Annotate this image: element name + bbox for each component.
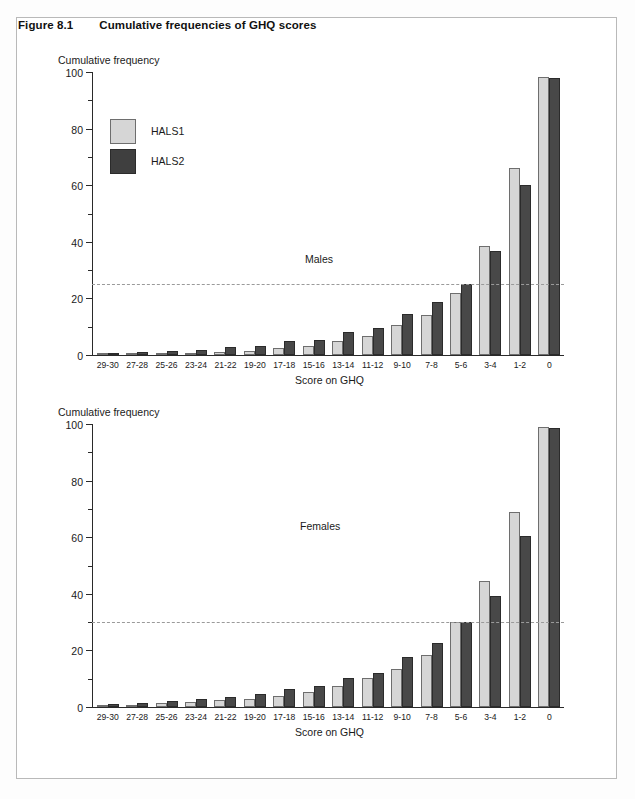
x-axis-tick-label: 25-26: [152, 360, 181, 370]
legend-item-hals2: HALS2: [110, 146, 184, 176]
x-axis-tick-label: 17-18: [270, 712, 299, 722]
bar-hals2: [225, 347, 236, 355]
bar-hals1: [509, 512, 520, 707]
chart-panel-males: Cumulative frequency 020406080100 Males …: [0, 48, 601, 400]
panel-label-females: Females: [300, 520, 340, 532]
bar-group: [417, 72, 446, 355]
bar-group: [211, 424, 240, 707]
bar-group: [270, 72, 299, 355]
reference-line: [92, 284, 564, 285]
bar-hals1: [479, 581, 490, 707]
bar-hals1: [362, 336, 373, 355]
x-axis-tick-label: 9-10: [387, 360, 416, 370]
x-axis-tick-label: 29-30: [93, 360, 122, 370]
figure-title-row: Figure 8.1 Cumulative frequencies of GHQ…: [18, 14, 578, 36]
bar-hals2: [461, 284, 472, 355]
y-axis-major-tick: [86, 355, 92, 356]
bar-hals1: [185, 702, 196, 707]
figure-number: Figure 8.1: [18, 19, 73, 31]
bar-hals2: [490, 596, 501, 707]
legend-item-hals1: HALS1: [110, 116, 184, 146]
bar-hals2: [432, 643, 443, 707]
y-axis-major-tick: [86, 594, 92, 595]
bar-hals1: [332, 341, 343, 355]
bar-hals2: [314, 340, 325, 355]
bar-hals1: [509, 168, 520, 355]
x-axis-tick-label: 21-22: [211, 360, 240, 370]
y-axis-major-tick: [86, 185, 92, 186]
x-axis-line: [92, 707, 564, 708]
bar-hals1: [97, 353, 108, 355]
bar-series-container: [93, 72, 564, 355]
bar-group: [476, 72, 505, 355]
bar-hals2: [108, 353, 119, 355]
x-axis-tick-label: 17-18: [270, 360, 299, 370]
bar-group: [505, 72, 534, 355]
bar-group: [446, 424, 475, 707]
bar-group: [211, 72, 240, 355]
bar-hals2: [343, 332, 354, 355]
x-axis-tick-label: 13-14: [329, 360, 358, 370]
bar-group: [240, 424, 269, 707]
bar-hals2: [490, 251, 501, 355]
bar-hals1: [244, 351, 255, 355]
bar-hals2: [402, 657, 413, 707]
bar-hals1: [479, 246, 490, 355]
bar-hals2: [255, 694, 266, 707]
bar-hals2: [373, 673, 384, 707]
bar-group: [93, 424, 122, 707]
bar-group: [152, 72, 181, 355]
y-axis-major-tick: [86, 72, 92, 73]
y-axis-tick-label: 40: [71, 589, 83, 601]
bar-hals1: [332, 686, 343, 707]
bar-group: [299, 424, 328, 707]
bar-hals1: [421, 315, 432, 355]
x-axis-tick-label: 0: [535, 360, 564, 370]
x-axis-tick-label: 5-6: [446, 360, 475, 370]
bar-group: [387, 72, 416, 355]
x-axis-tick-label: 29-30: [93, 712, 122, 722]
bar-hals1: [156, 353, 167, 355]
y-axis-tick-label: 40: [71, 237, 83, 249]
y-axis-tick-label: 80: [71, 476, 83, 488]
bar-hals2: [167, 351, 178, 355]
bar-hals2: [284, 689, 295, 707]
x-axis-tick-label: 5-6: [446, 712, 475, 722]
bar-group: [299, 72, 328, 355]
bar-hals1: [362, 678, 373, 707]
y-axis-major-tick: [86, 242, 92, 243]
y-axis-tick-label: 80: [71, 124, 83, 136]
y-axis-tick-label: 0: [77, 702, 83, 714]
bar-hals2: [196, 699, 207, 707]
x-axis-tick-label: 3-4: [476, 712, 505, 722]
bar-hals2: [284, 341, 295, 355]
plot-area-males: 020406080100: [92, 72, 564, 356]
x-axis-tick-label: 27-28: [122, 712, 151, 722]
bar-hals1: [126, 353, 137, 355]
y-axis-major-tick: [86, 481, 92, 482]
x-axis-tick-label: 9-10: [387, 712, 416, 722]
bar-group: [417, 424, 446, 707]
bar-group: [387, 424, 416, 707]
x-axis-tick-label: 15-16: [299, 712, 328, 722]
bar-group: [476, 424, 505, 707]
bar-group: [535, 72, 564, 355]
x-axis-tick-label: 27-28: [122, 360, 151, 370]
y-axis-tick-label: 60: [71, 532, 83, 544]
y-axis-minor-tick: [88, 214, 92, 215]
x-axis-tick-label: 7-8: [417, 712, 446, 722]
x-axis-tick-label: 7-8: [417, 360, 446, 370]
bar-series-container: [93, 424, 564, 707]
bar-hals1: [214, 700, 225, 707]
y-axis-minor-tick: [88, 100, 92, 101]
y-axis-minor-tick: [88, 566, 92, 567]
bar-hals2: [137, 703, 148, 707]
x-axis-title-text: Score on GHQ: [295, 726, 364, 738]
y-axis-tick-label: 20: [71, 293, 83, 305]
legend-label-hals2: HALS2: [151, 155, 184, 167]
bar-hals2: [137, 352, 148, 355]
x-axis-tick-label: 23-24: [181, 360, 210, 370]
legend-swatch-hals2: [110, 149, 136, 174]
x-axis-tick-label: 19-20: [240, 712, 269, 722]
y-axis-tick-label: 20: [71, 645, 83, 657]
